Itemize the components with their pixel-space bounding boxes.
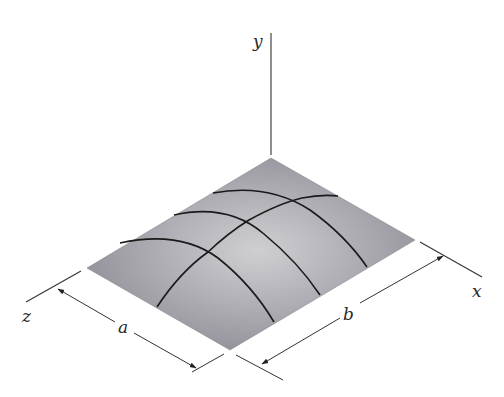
dim-a-extension xyxy=(192,354,224,372)
dim-a-arrow-upper xyxy=(58,289,115,322)
plate-surface xyxy=(87,158,415,350)
dim-b-label: b xyxy=(343,304,354,324)
dim-b-arrow-lower xyxy=(262,318,340,364)
dim-a-arrow-lower xyxy=(134,333,196,368)
dim-b-extension xyxy=(236,355,283,380)
y-axis-label: y xyxy=(252,31,263,51)
z-axis-label: z xyxy=(21,306,32,326)
x-axis xyxy=(420,242,482,277)
x-axis-label: x xyxy=(472,281,482,301)
plate-diagram: y z x a b xyxy=(0,0,504,397)
dim-a-label: a xyxy=(118,317,128,337)
